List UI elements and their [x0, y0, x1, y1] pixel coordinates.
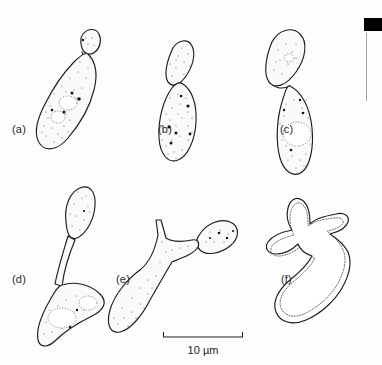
panel-a: (a) [12, 30, 100, 149]
panel-c: (c) [266, 30, 313, 174]
panel-d-apex [66, 187, 95, 239]
scale-bar-label: 10 µm [188, 344, 219, 356]
page-edge-artifact [364, 18, 382, 101]
figure-plate: (a) [0, 0, 382, 365]
panel-b-mother-cell [159, 83, 196, 161]
panel-label-f: (f) [281, 273, 292, 285]
panel-c-vacuole [284, 54, 294, 62]
scale-bar: 10 µm [163, 332, 243, 356]
panel-label-c: (c) [280, 123, 293, 135]
panel-b-daughter-cell [166, 41, 194, 85]
figure-canvas: (a) [0, 0, 382, 365]
edge-black-block [364, 18, 382, 31]
panel-b: (b) [158, 41, 196, 161]
panel-label-d: (d) [12, 273, 26, 285]
panel-e-daughter-cell [196, 221, 237, 254]
panel-d: (d) [12, 187, 104, 346]
panel-label-e: (e) [116, 273, 130, 285]
panel-label-a: (a) [12, 123, 26, 135]
panel-d-vacuole [48, 308, 76, 328]
panel-f: (f) [266, 198, 350, 322]
panel-f-stellate-cell [266, 198, 350, 322]
panel-e: (e) [108, 220, 237, 332]
panel-a-bud [81, 30, 101, 55]
panel-d-vacuole [79, 296, 97, 310]
panel-a-vacuole [59, 96, 77, 110]
panel-label-b: (b) [158, 123, 172, 135]
panel-d-germ-tube [55, 236, 75, 286]
